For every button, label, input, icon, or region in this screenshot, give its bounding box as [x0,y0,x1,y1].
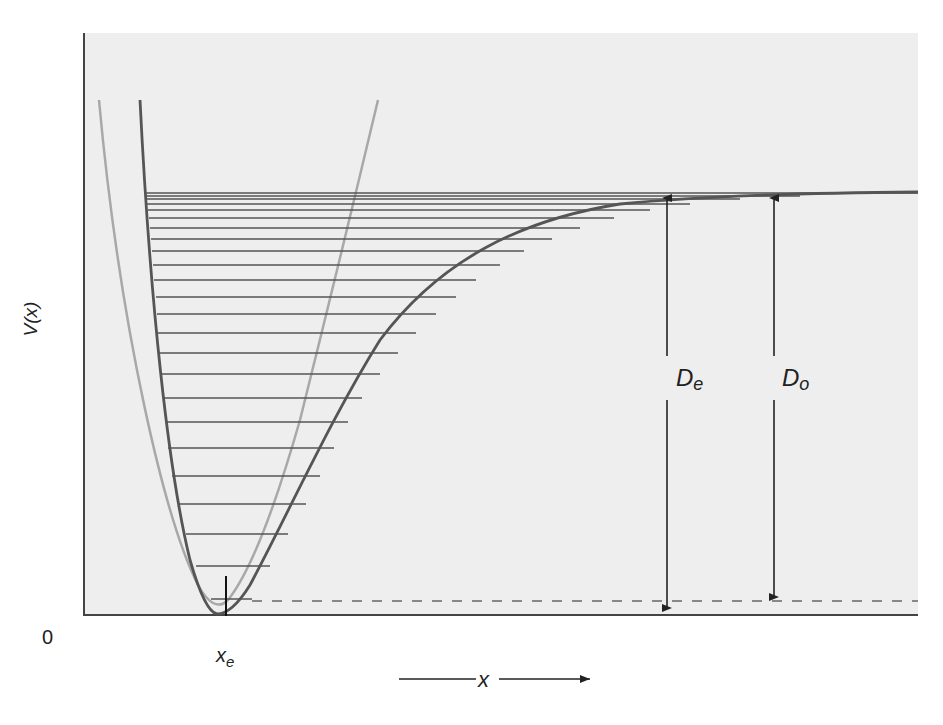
Do-label-main: D [782,364,799,391]
origin-label: 0 [42,626,53,649]
plot-panel [84,33,918,616]
x-axis-label: x [478,667,489,693]
y-axis-label: V(x) [20,302,42,337]
Do-label: Do [782,364,809,395]
De-label: De [676,364,703,395]
equilibrium-label-main: x [216,644,226,666]
equilibrium-label-sub: e [226,653,234,670]
De-label-sub: e [693,374,703,394]
diagram-canvas [0,0,943,725]
equilibrium-label: xe [216,644,234,670]
Do-label-sub: o [799,374,809,394]
morse-potential-figure: V(x) 0 xe De Do x [0,0,943,725]
De-label-main: D [676,364,693,391]
